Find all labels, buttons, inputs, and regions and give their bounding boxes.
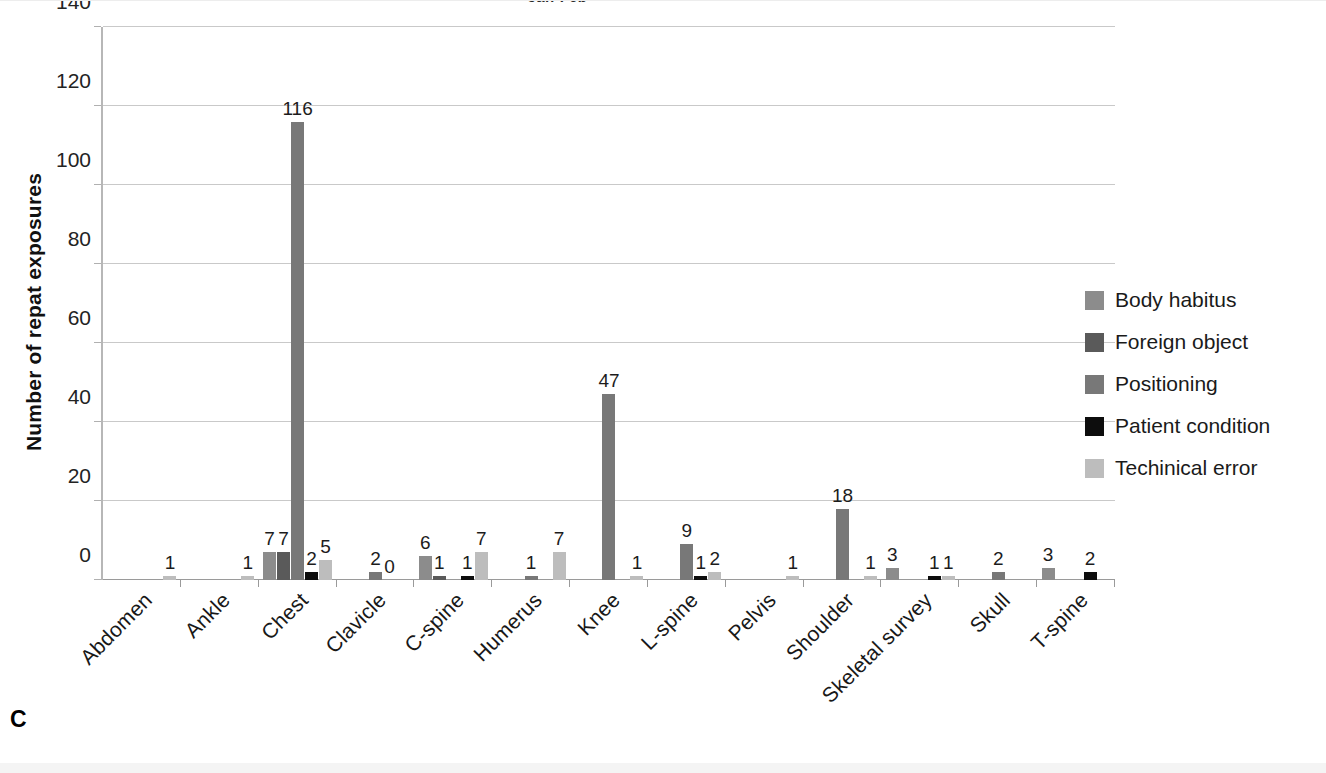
legend-item[interactable]: Positioning [1085,363,1270,405]
x-axis-labels: AbdomenAnkleChestClavicleC-spineHumerusK… [101,582,1115,702]
legend-swatch-icon [1085,417,1104,436]
x-label-cell: Abdomen [101,582,179,702]
x-axis-category-label: Skull [965,588,1015,638]
legend-item[interactable]: Techinical error [1085,447,1270,489]
y-tick-label: 80 [1,227,91,251]
x-label-cell: Skull [959,582,1037,702]
x-label-cell: T-spine [1037,582,1115,702]
legend-swatch-icon [1085,459,1104,478]
x-label-cell: Knee [569,582,647,702]
y-tick-label: 0 [1,543,91,567]
x-label-cell: Skeletal survey [881,582,959,702]
y-tick-mark [94,421,101,422]
x-axis-category-label: T-spine [1026,588,1093,655]
y-axis-ticks: 020406080100120140 [101,27,1115,580]
x-axis-category-label: L-spine [636,588,703,655]
x-axis-category-label: Chest [257,588,313,644]
legend-item[interactable]: Patient condition [1085,405,1270,447]
legend: Body habitusForeign objectPositioningPat… [1085,279,1270,489]
y-tick-label: 140 [1,0,91,14]
legend-swatch-icon [1085,333,1104,352]
x-label-cell: Ankle [179,582,257,702]
x-axis-category-label: Knee [573,588,625,640]
legend-swatch-icon [1085,375,1104,394]
y-tick-mark [94,579,101,580]
scan-artifact-top [0,0,1326,1]
y-tick-label: 20 [1,464,91,488]
x-label-cell: Humerus [491,582,569,702]
y-tick-mark [94,26,101,27]
legend-label: Patient condition [1115,414,1270,438]
scan-artifact-bottom [0,763,1326,773]
x-axis-category-label: Ankle [180,588,235,643]
legend-label: Positioning [1115,372,1218,396]
legend-item[interactable]: Foreign object [1085,321,1270,363]
legend-swatch-icon [1085,291,1104,310]
legend-label: Body habitus [1115,288,1236,312]
y-tick-label: 40 [1,385,91,409]
y-tick-mark [94,263,101,264]
y-tick-mark [94,342,101,343]
y-tick-mark [94,184,101,185]
legend-label: Foreign object [1115,330,1248,354]
legend-label: Techinical error [1115,456,1257,480]
y-tick-mark [94,500,101,501]
panel-letter: C [10,706,27,733]
y-tick-label: 100 [1,148,91,172]
x-axis-category-label: Pelvis [724,588,781,645]
y-tick-label: 120 [1,69,91,93]
x-axis-category-label: Abdomen [75,588,157,670]
y-tick-mark [94,105,101,106]
y-tick-label: 60 [1,306,91,330]
legend-item[interactable]: Body habitus [1085,279,1270,321]
x-label-cell: L-spine [647,582,725,702]
